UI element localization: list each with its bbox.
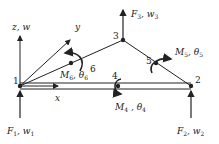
- svg-text:M5, θ5: M5, θ5: [174, 47, 203, 58]
- force-f3: F3, w3: [123, 9, 159, 38]
- node-4-dot: [116, 84, 120, 88]
- node-6-label: 6: [90, 64, 96, 74]
- node-2-dot: [189, 84, 193, 88]
- plate-element-diagram: z, w y x 1 2 3 4 5 6 F1, w1 F2, w2: [0, 0, 219, 144]
- node-6-dot: [69, 61, 73, 65]
- node-5-label: 5: [146, 56, 152, 66]
- node-3-label: 3: [113, 31, 119, 41]
- node-1-label: 1: [13, 76, 19, 86]
- node-dots: [18, 38, 193, 88]
- z-axis: z, w: [11, 22, 30, 84]
- svg-text:F3, w3: F3, w3: [130, 9, 159, 20]
- force-f2: F2, w2: [176, 91, 205, 137]
- moment-m5: M5, θ5: [151, 47, 203, 73]
- svg-text:M4 , θ4: M4 , θ4: [114, 102, 146, 113]
- svg-text:F1, w1: F1, w1: [6, 126, 34, 137]
- z-axis-label: z, w: [11, 22, 30, 32]
- node-3-dot: [121, 38, 125, 42]
- node-2-label: 2: [195, 75, 201, 85]
- y-axis-label: y: [74, 22, 81, 32]
- svg-text:M6, θ6: M6, θ6: [59, 70, 88, 81]
- node-4-label: 4: [112, 71, 118, 81]
- x-axis-label: x: [55, 93, 60, 103]
- svg-text:F2, w2: F2, w2: [176, 126, 205, 137]
- force-f1: F1, w1: [6, 91, 34, 137]
